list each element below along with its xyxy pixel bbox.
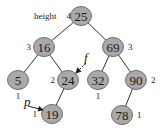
node-19: 191 (33, 105, 63, 124)
node-height: 1 (16, 91, 21, 101)
height-label: height (34, 11, 57, 21)
node-value: 19 (46, 107, 59, 122)
pointer-f-label: f (84, 50, 90, 65)
node-78: 781 (112, 106, 142, 125)
node-value: 69 (107, 40, 120, 55)
node-height: 1 (33, 109, 38, 119)
node-height: 2 (151, 75, 156, 85)
tree-edges (18, 16, 136, 115)
node-value: 25 (75, 9, 88, 24)
pointer-arrows: fp (23, 50, 90, 110)
node-value: 78 (116, 108, 129, 123)
node-25: 254 (67, 7, 92, 26)
node-69: 693 (103, 38, 134, 57)
node-16: 163 (27, 38, 55, 57)
node-height: 3 (27, 42, 32, 52)
avl-tree-diagram: 25416369351242321902191781 fp height (0, 0, 162, 131)
pointer-p-label: p (23, 94, 31, 109)
node-32: 321 (88, 71, 109, 102)
node-value: 24 (62, 73, 76, 88)
node-value: 32 (92, 73, 105, 88)
node-value: 16 (38, 40, 52, 55)
node-height: 2 (51, 75, 56, 85)
node-value: 90 (130, 73, 143, 88)
node-height: 1 (96, 91, 101, 101)
node-height: 3 (128, 42, 133, 52)
node-height: 4 (67, 11, 72, 21)
node-90: 902 (126, 71, 156, 90)
node-height: 1 (137, 110, 142, 120)
node-value: 5 (15, 73, 22, 88)
node-24: 242 (51, 71, 79, 90)
